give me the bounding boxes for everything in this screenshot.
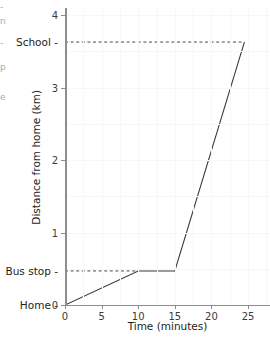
gridline-vertical	[102, 8, 103, 305]
series-layer	[65, 8, 270, 305]
gridline-horizontal	[65, 269, 270, 270]
edge-text-fragment: -	[0, 2, 3, 12]
gridline-vertical	[266, 8, 267, 305]
x-tick	[65, 305, 66, 309]
y-tick-label: 0	[52, 300, 58, 311]
y-tick-label: 3	[52, 82, 58, 93]
gridline-vertical	[211, 8, 212, 305]
journey-line	[65, 42, 244, 305]
y-tick	[61, 88, 65, 89]
gridline-horizontal	[65, 124, 270, 125]
gridline-vertical	[193, 8, 194, 305]
x-tick	[211, 305, 212, 309]
gridline-vertical	[120, 8, 121, 305]
x-axis-line	[65, 305, 270, 306]
y-tick	[61, 233, 65, 234]
marker-label-school: School -	[0, 36, 58, 48]
y-tick	[61, 305, 65, 306]
y-tick-label: 1	[52, 227, 58, 238]
gridline-vertical	[83, 8, 84, 305]
gridline-horizontal	[65, 196, 270, 197]
marker-label-home: Home -	[0, 299, 58, 311]
gridline-vertical	[248, 8, 249, 305]
marker-label-bus-stop: Bus stop -	[0, 265, 58, 277]
gridline-vertical	[138, 8, 139, 305]
gridline-horizontal	[65, 51, 270, 52]
gridline-vertical	[157, 8, 158, 305]
edge-text-fragment: p	[0, 62, 6, 72]
y-tick	[61, 15, 65, 16]
y-tick-label: 4	[52, 10, 58, 21]
y-tick	[61, 160, 65, 161]
gridline-horizontal	[65, 88, 270, 89]
gridline-horizontal	[65, 233, 270, 234]
gridline-vertical	[230, 8, 231, 305]
x-tick	[248, 305, 249, 309]
y-tick-label: 2	[52, 155, 58, 166]
gridline-horizontal	[65, 15, 270, 16]
x-tick	[175, 305, 176, 309]
edge-text-fragment: n	[0, 16, 6, 26]
y-axis-title: Distance from home (km)	[30, 90, 42, 225]
plot-area: 051015202501234	[65, 8, 270, 305]
y-axis-line	[65, 8, 67, 305]
gridline-horizontal	[65, 160, 270, 161]
x-tick	[138, 305, 139, 309]
gridline-vertical	[175, 8, 176, 305]
edge-text-fragment: e	[0, 92, 6, 102]
chart-figure: -n-pe School -Bus stop -Home - Distance …	[0, 0, 270, 337]
x-tick	[102, 305, 103, 309]
x-axis-title: Time (minutes)	[65, 320, 270, 332]
